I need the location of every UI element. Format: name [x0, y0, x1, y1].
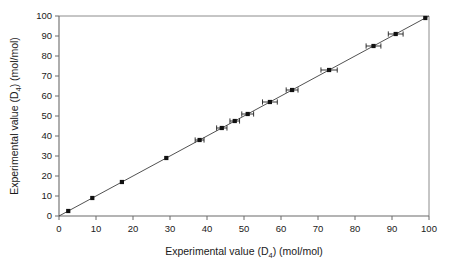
data-point-marker	[66, 209, 70, 213]
x-tick-label: 50	[239, 223, 250, 234]
x-tick-label: 10	[91, 223, 102, 234]
y-tick-label: 60	[41, 90, 52, 101]
data-point-marker	[90, 196, 94, 200]
x-axis-title: Experimental value (D4) (mol/mol)	[165, 245, 323, 260]
y-tick-label: 20	[41, 170, 52, 181]
y-tick-label: 80	[41, 50, 52, 61]
x-tick-label: 60	[276, 223, 287, 234]
data-point-marker	[423, 16, 427, 20]
data-point-marker	[290, 88, 294, 92]
data-point-marker	[394, 32, 398, 36]
data-point-marker	[198, 138, 202, 142]
x-tick-label: 40	[202, 223, 213, 234]
y-tick-label: 100	[36, 10, 52, 21]
y-tick-label: 90	[41, 30, 52, 41]
data-point-marker	[246, 112, 250, 116]
data-point-marker	[327, 68, 331, 72]
x-tick-label: 20	[128, 223, 139, 234]
data-point-marker	[120, 180, 124, 184]
data-point-marker	[371, 44, 375, 48]
data-point-marker	[164, 156, 168, 160]
data-point-marker	[220, 126, 224, 130]
y-tick-label: 50	[41, 110, 52, 121]
x-tick-label: 0	[56, 223, 61, 234]
chart-canvas: 0102030405060708090100010203040506070809…	[0, 0, 453, 265]
x-tick-label: 30	[165, 223, 176, 234]
x-tick-label: 90	[387, 223, 398, 234]
y-tick-label: 10	[41, 190, 52, 201]
data-point-marker	[268, 100, 272, 104]
x-tick-label: 80	[350, 223, 361, 234]
data-point-marker	[233, 119, 237, 123]
y-axis-title: Experimental value (D4) (mol/mol)	[8, 37, 23, 195]
x-tick-label: 70	[313, 223, 324, 234]
y-tick-label: 0	[47, 210, 52, 221]
y-tick-label: 30	[41, 150, 52, 161]
x-tick-label: 100	[421, 223, 437, 234]
y-tick-label: 40	[41, 130, 52, 141]
parity-plot-figure: 0102030405060708090100010203040506070809…	[0, 0, 453, 265]
y-tick-label: 70	[41, 70, 52, 81]
